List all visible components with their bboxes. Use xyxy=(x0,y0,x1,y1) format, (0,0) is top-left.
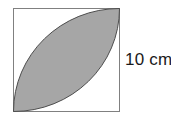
dimension-label-10cm: 10 cm xyxy=(125,50,171,69)
geometry-figure: 10 cm xyxy=(0,0,171,121)
